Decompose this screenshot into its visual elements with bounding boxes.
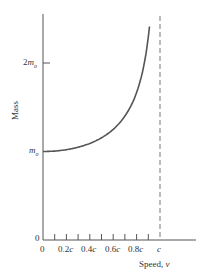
chart-canvas [0, 0, 204, 272]
x-tick-label-0.2c: 0.2c [58, 244, 73, 254]
x-axis-label: Speed, v [139, 259, 170, 269]
c-symbol: c [69, 244, 73, 254]
num: 0.8 [128, 244, 139, 254]
y-tick-label-2m0: 2mo [23, 57, 37, 69]
x-tick-label-0.6c: 0.6c [105, 244, 120, 254]
speed-text: Speed, [139, 259, 166, 269]
mass-curve [43, 27, 150, 152]
x-tick-label-c: c [157, 244, 161, 254]
y-axis-label: Mass [10, 101, 20, 120]
c-symbol: c [92, 244, 96, 254]
c-symbol: c [116, 244, 120, 254]
x-tick-label-0: 0 [40, 244, 45, 254]
x-ticks [55, 234, 149, 240]
num: 0.2 [58, 244, 69, 254]
subscript: o [34, 63, 37, 69]
num: 0.6 [105, 244, 116, 254]
x-tick-label-0.4c: 0.4c [81, 244, 96, 254]
c-symbol: c [139, 244, 143, 254]
y-tick-label-m0: mo [29, 145, 39, 157]
x-tick-label-0.8c: 0.8c [128, 244, 143, 254]
num: 0.4 [81, 244, 92, 254]
subscript: o [36, 151, 39, 157]
y-tick-label-0: 0 [35, 233, 40, 243]
v-symbol: v [166, 259, 170, 269]
